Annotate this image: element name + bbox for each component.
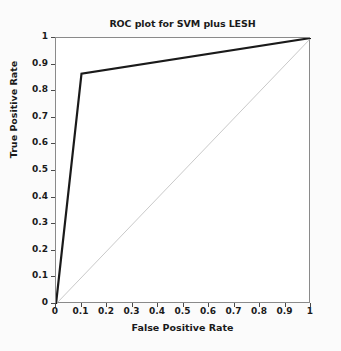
y-tick-label-text: 0.7 xyxy=(32,111,48,121)
x-tick-label: 0.6 xyxy=(200,306,216,316)
x-tick-label: 0.9 xyxy=(277,306,293,316)
plot-area xyxy=(55,37,310,303)
y-tick xyxy=(51,250,55,251)
chart-title: ROC plot for SVM plus LESH xyxy=(55,18,310,29)
x-tick-label: 0.4 xyxy=(149,306,165,316)
x-tick-label: 0 xyxy=(52,306,58,316)
x-tick-label: 0.3 xyxy=(124,306,140,316)
y-tick-label-text: 0.9 xyxy=(32,58,48,68)
x-tick-label: 0.8 xyxy=(251,306,267,316)
y-tick xyxy=(51,64,55,65)
x-tick-label: 0.2 xyxy=(98,306,114,316)
x-tick-label: 0.5 xyxy=(175,306,191,316)
y-tick-label-text: 0 xyxy=(42,297,48,307)
y-tick-label-text: 1 xyxy=(42,31,48,41)
y-tick-label-text: 0.5 xyxy=(32,164,48,174)
y-tick-label-text: 0.6 xyxy=(32,137,48,147)
y-tick xyxy=(51,90,55,91)
y-tick xyxy=(51,37,55,38)
x-tick-label: 1 xyxy=(307,306,313,316)
chance-diagonal-line xyxy=(56,38,311,304)
y-tick xyxy=(51,170,55,171)
y-tick-label-text: 0.3 xyxy=(32,217,48,227)
plot-canvas xyxy=(56,38,311,304)
x-axis-title: False Positive Rate xyxy=(55,322,310,333)
y-tick xyxy=(51,143,55,144)
y-tick xyxy=(51,223,55,224)
y-tick xyxy=(51,117,55,118)
y-tick-label-text: 0.1 xyxy=(32,270,48,280)
x-tick-label: 0.7 xyxy=(226,306,242,316)
y-tick xyxy=(51,276,55,277)
roc-plot-figure: ROC plot for SVM plus LESH 00.10.20.30.4… xyxy=(0,0,341,351)
y-tick xyxy=(51,197,55,198)
y-tick-label-text: 0.2 xyxy=(32,244,48,254)
y-tick xyxy=(51,303,55,304)
y-axis-title: True Positive Rate xyxy=(8,45,19,175)
x-tick-label: 0.1 xyxy=(73,306,89,316)
y-tick-label-text: 0.8 xyxy=(32,84,48,94)
y-tick-label-text: 0.4 xyxy=(32,191,48,201)
